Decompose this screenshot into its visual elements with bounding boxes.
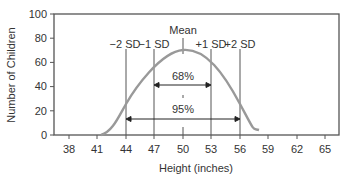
range-95-label: 95% bbox=[172, 103, 194, 115]
mean-label: Mean bbox=[169, 24, 197, 36]
y-tick-label: 80 bbox=[35, 32, 47, 44]
range-95-arrow bbox=[126, 117, 240, 122]
x-tick-label: 59 bbox=[262, 143, 274, 155]
y-tick-label: 0 bbox=[41, 129, 47, 141]
x-tick-label: 53 bbox=[205, 143, 217, 155]
sd-label: −1 SD bbox=[139, 38, 170, 50]
sd-label: −2 SD bbox=[110, 38, 141, 50]
y-axis-label: Number of Children bbox=[5, 27, 17, 122]
y-tick-label: 100 bbox=[29, 8, 47, 20]
sd-lines bbox=[126, 38, 240, 135]
range-68-arrow bbox=[154, 83, 211, 88]
x-tick-label: 56 bbox=[234, 143, 246, 155]
y-axis: 100 80 60 40 20 0 bbox=[29, 8, 54, 141]
sd-label: +1 SD bbox=[196, 38, 227, 50]
x-tick-label: 62 bbox=[291, 143, 303, 155]
y-tick-label: 60 bbox=[35, 56, 47, 68]
sd-label: +2 SD bbox=[225, 38, 256, 50]
x-tick-label: 50 bbox=[177, 143, 189, 155]
normal-curve bbox=[101, 50, 259, 135]
range-68-label: 68% bbox=[172, 70, 194, 82]
x-axis-label: Height (inches) bbox=[159, 162, 233, 174]
y-tick-label: 20 bbox=[35, 105, 47, 117]
x-tick-label: 38 bbox=[63, 143, 75, 155]
x-tick-label: 47 bbox=[148, 143, 160, 155]
x-tick-label: 44 bbox=[120, 143, 132, 155]
bell-curve-chart: 100 80 60 40 20 0 Number of Children 38 … bbox=[0, 0, 348, 184]
y-tick-label: 40 bbox=[35, 80, 47, 92]
x-tick-label: 41 bbox=[91, 143, 103, 155]
x-tick-label: 65 bbox=[319, 143, 331, 155]
